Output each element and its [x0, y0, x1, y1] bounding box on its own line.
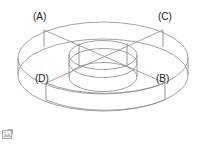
point-label-a: (A): [33, 12, 46, 22]
figure-canvas: (A) (C) (D) (B): [0, 0, 206, 145]
broken-image-icon: [2, 129, 13, 140]
point-label-c: (C): [158, 12, 172, 22]
inner-bottom-ellipse: [69, 63, 137, 92]
annulus-wireframe-drawing: [0, 0, 206, 145]
point-label-d: (D): [35, 74, 49, 84]
chord-C-to-D: [46, 30, 163, 83]
point-label-b: (B): [156, 74, 169, 84]
front-band-lower-arc: [46, 100, 165, 110]
